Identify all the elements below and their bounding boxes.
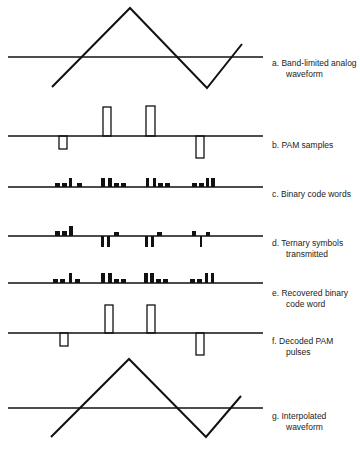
label-b: b. PAM samples [272, 140, 333, 151]
label-f-line2: pulses [272, 347, 333, 358]
label-e-line1: e. Recovered binary [272, 288, 348, 298]
label-e-line2: code word [272, 299, 348, 310]
label-f-line1: f. Decoded PAM [272, 336, 333, 346]
pcm-diagram: a. Band-limited analog waveform b. PAM s… [0, 0, 360, 450]
label-g-line2: waveform [272, 422, 326, 433]
label-a: a. Band-limited analog waveform [272, 58, 357, 80]
label-c-line1: c. Binary code words [272, 189, 351, 199]
label-b-line1: b. PAM samples [272, 140, 333, 150]
panel-g-interpolated [8, 359, 263, 437]
label-g: g. Interpolated waveform [272, 411, 326, 433]
label-f: f. Decoded PAM pulses [272, 336, 333, 358]
label-g-line1: g. Interpolated [272, 411, 326, 421]
panel-a-waveform [8, 8, 263, 88]
label-a-line1: a. Band-limited analog [272, 58, 357, 68]
label-d-line1: d. Ternary symbols [272, 238, 343, 248]
label-d: d. Ternary symbols transmitted [272, 238, 343, 260]
label-a-line2: waveform [272, 69, 357, 80]
panel-b-pam-samples [8, 106, 263, 158]
panel-f-decoded-pam [8, 305, 263, 355]
label-d-line2: transmitted [272, 249, 343, 260]
label-c: c. Binary code words [272, 189, 351, 200]
label-e: e. Recovered binary code word [272, 288, 348, 310]
